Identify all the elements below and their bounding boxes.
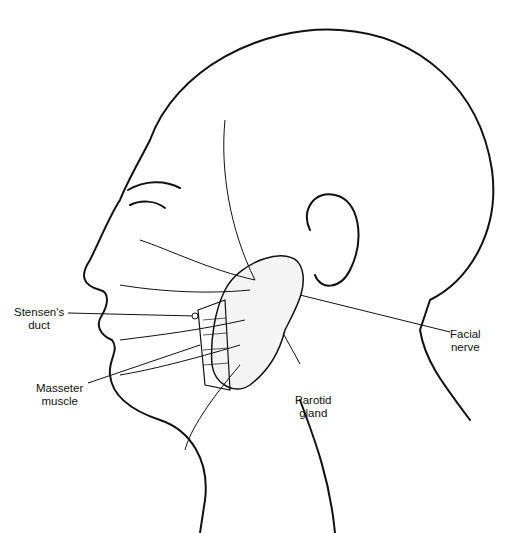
stensens-duct-opening — [192, 313, 198, 319]
label-masseter-muscle: Masseter muscle — [36, 382, 83, 408]
label-stensens-duct: Stensen's duct — [14, 306, 64, 332]
head-outline — [150, 30, 493, 420]
head-illustration — [0, 0, 509, 533]
eye — [130, 202, 165, 208]
label-facial-nerve: Facial nerve — [450, 328, 481, 354]
label-parotid-gland: Parotid gland — [295, 394, 331, 420]
parotid-gland — [212, 256, 304, 389]
eyebrow — [128, 182, 180, 190]
anatomy-diagram: Stensen's duct Masseter muscle Parotid g… — [0, 0, 509, 533]
ear — [307, 194, 359, 285]
